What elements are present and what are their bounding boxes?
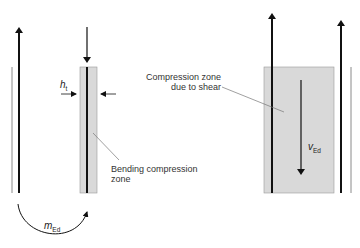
- bending-label-line2: zone: [111, 174, 198, 184]
- bending-label-line1: Bending compression: [111, 164, 198, 174]
- shear-force-label: vEd: [308, 141, 321, 154]
- bending-compression-label: Bending compression zone: [111, 164, 198, 184]
- ht-label: ht: [60, 79, 67, 92]
- left-section: [12, 30, 19, 193]
- diagram-canvas: [0, 0, 360, 248]
- right-section: [222, 16, 351, 193]
- shear-label-line2: due to shear: [146, 82, 221, 92]
- bending-compression-strip: [80, 67, 97, 193]
- shear-compression-label: Compression zone due to shear: [146, 72, 221, 92]
- shear-compression-zone: [264, 67, 334, 193]
- moment-label: mEd: [44, 220, 60, 233]
- shear-label-line1: Compression zone: [146, 72, 221, 82]
